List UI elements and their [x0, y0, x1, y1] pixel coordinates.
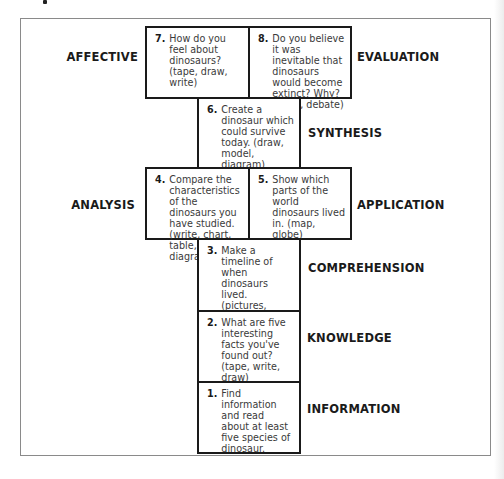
activity-text: Show which parts of the world dinosaurs … [272, 174, 345, 234]
activity-text: What are five interesting facts you've f… [221, 317, 294, 377]
activity-number: 1. [207, 388, 217, 448]
activity-number: 4. [155, 174, 165, 234]
activity-box-4: 4. Compare the characteristics of the di… [145, 167, 250, 240]
activity-number: 8. [258, 33, 268, 93]
level-label-knowledge: KNOWLEDGE [307, 331, 392, 345]
activity-number: 5. [258, 174, 268, 234]
activity-text: Compare the characteristics of the dinos… [169, 174, 243, 234]
activity-text: Find information and read about at least… [221, 388, 294, 448]
activity-box-6: 6. Create a dinosaur which could survive… [197, 97, 301, 169]
activity-number: 2. [207, 317, 217, 377]
activity-box-7: 7. How do you feel about dinosaurs? (tap… [145, 26, 250, 99]
activity-number: 7. [155, 33, 165, 93]
level-label-evaluation: EVALUATION [357, 50, 439, 64]
level-label-analysis: ANALYSIS [71, 198, 135, 212]
level-label-synthesis: SYNTHESIS [308, 126, 382, 140]
activity-box-5: 5. Show which parts of the world dinosau… [248, 167, 352, 240]
page-edge-shadow [494, 0, 504, 479]
level-label-comprehension: COMPREHENSION [308, 261, 424, 275]
activity-box-8: 8. Do you believe it was inevitable that… [248, 26, 352, 99]
activity-text: How do you feel about dinosaurs? (tape, … [169, 33, 243, 93]
activity-box-2: 2. What are five interesting facts you'v… [197, 310, 301, 383]
activity-number: 6. [207, 104, 217, 163]
activity-text: Do you believe it was inevitable that di… [272, 33, 345, 93]
activity-box-1: 1. Find information and read about at le… [197, 381, 301, 454]
activity-number: 3. [207, 245, 217, 306]
page-mark [43, 0, 47, 4]
activity-text: Make a timeline of when dinosaurs lived.… [221, 245, 294, 306]
level-label-information: INFORMATION [307, 402, 401, 416]
activity-box-3: 3. Make a timeline of when dinosaurs liv… [197, 238, 301, 312]
activity-text: Create a dinosaur which could survive to… [221, 104, 294, 163]
level-label-affective: AFFECTIVE [66, 50, 138, 64]
level-label-application: APPLICATION [357, 198, 445, 212]
